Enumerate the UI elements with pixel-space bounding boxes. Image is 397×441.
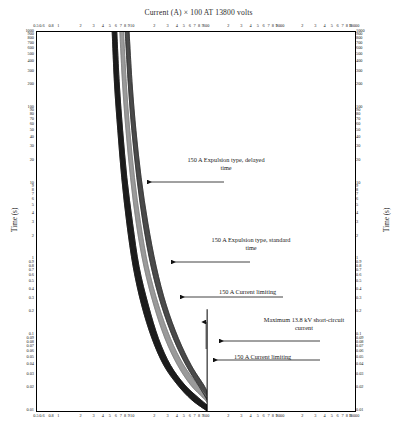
y-tick-label: 200 bbox=[356, 81, 388, 87]
x-tick-label: 0.5 bbox=[33, 411, 38, 420]
y-tick-label: 0.02 bbox=[356, 384, 388, 390]
y-tick-label: 2 bbox=[2, 233, 34, 239]
x-tick-label: 2 bbox=[301, 411, 303, 420]
x-axis-ticks-top: 0.50.60.81234567891023456789100234567891… bbox=[36, 21, 354, 30]
y-tick-label: 0.5 bbox=[356, 278, 388, 284]
x-tick-label: 6 bbox=[189, 21, 191, 30]
x-axis-ticks-bottom: 0.50.60.81234567891023456789100234567891… bbox=[36, 411, 354, 420]
x-tick-label: 3 bbox=[314, 21, 316, 30]
x-tick-label: 3 bbox=[166, 411, 168, 420]
x-tick-label: 3 bbox=[92, 411, 94, 420]
x-tick-label: 5 bbox=[183, 411, 185, 420]
curve-line bbox=[120, 32, 207, 402]
x-tick-label: 4 bbox=[323, 21, 325, 30]
y-tick-label: 0.5 bbox=[2, 278, 34, 284]
y-tick-label: 0.3 bbox=[356, 295, 388, 301]
y-tick-label: 0.4 bbox=[2, 286, 34, 292]
y-tick-label: 30 bbox=[356, 143, 388, 149]
x-tick-label: 1 bbox=[57, 411, 59, 420]
y-axis-title-left: Time (s) bbox=[11, 208, 19, 232]
x-tick-label: 8 bbox=[272, 411, 274, 420]
y-tick-label: 0.02 bbox=[2, 384, 34, 390]
x-tick-label: 8 bbox=[124, 411, 126, 420]
x-tick-label: 0.6 bbox=[39, 411, 44, 420]
y-tick-label: 400 bbox=[2, 58, 34, 64]
x-tick-label: 3 bbox=[314, 411, 316, 420]
x-tick-label: 0.5 bbox=[33, 21, 38, 30]
y-tick-label: 0.04 bbox=[356, 361, 388, 367]
y-axis-title-right: Time (s) bbox=[383, 208, 391, 232]
y-tick-label: 20 bbox=[2, 157, 34, 163]
x-tick-label: 7 bbox=[341, 411, 343, 420]
annotation-max-short-circuit: Maximum 13.8 kV short-circuit current bbox=[228, 316, 380, 333]
x-tick-label: 2 bbox=[227, 411, 229, 420]
x-tick-label: 5 bbox=[331, 21, 333, 30]
x-tick-label: 100 bbox=[203, 411, 209, 420]
y-tick-label: 0.2 bbox=[2, 308, 34, 314]
x-tick-label: 2 bbox=[301, 21, 303, 30]
y-tick-label: 0.03 bbox=[356, 371, 388, 377]
x-tick-label: 5 bbox=[331, 411, 333, 420]
x-tick-label: 4 bbox=[250, 411, 252, 420]
chart-title-top: Current (A) × 100 AT 13800 volts bbox=[0, 8, 397, 17]
x-tick-label: 6 bbox=[263, 21, 265, 30]
curve-band bbox=[120, 32, 207, 402]
y-tick-label: 30 bbox=[2, 143, 34, 149]
x-tick-label: 3 bbox=[92, 21, 94, 30]
x-tick-label: 6 bbox=[189, 411, 191, 420]
y-tick-label: 0.01 bbox=[2, 407, 34, 413]
x-tick-label: 2 bbox=[79, 411, 81, 420]
x-tick-label: 8 bbox=[346, 21, 348, 30]
x-tick-label: 8 bbox=[198, 411, 200, 420]
y-tick-label: 300 bbox=[356, 68, 388, 74]
x-tick-label: 2 bbox=[153, 411, 155, 420]
x-tick-label: 3 bbox=[166, 21, 168, 30]
y-tick-label: 0.04 bbox=[2, 361, 34, 367]
x-tick-label: 5 bbox=[109, 411, 111, 420]
x-tick-label: 6 bbox=[337, 21, 339, 30]
x-tick-label: 4 bbox=[176, 21, 178, 30]
x-tick-label: 7 bbox=[268, 21, 270, 30]
x-tick-label: 4 bbox=[102, 411, 104, 420]
x-tick-label: 5 bbox=[109, 21, 111, 30]
x-tick-label: 6 bbox=[115, 21, 117, 30]
x-tick-label: 7 bbox=[194, 411, 196, 420]
x-tick-label: 100 bbox=[203, 21, 209, 30]
x-tick-label: 4 bbox=[102, 21, 104, 30]
y-tick-label: 50 bbox=[356, 127, 388, 133]
x-tick-label: 7 bbox=[120, 411, 122, 420]
x-tick-label: 4 bbox=[323, 411, 325, 420]
annotation-expulsion-delayed: 150 A Expulsion type, delayed time bbox=[152, 156, 300, 173]
x-tick-label: 6 bbox=[263, 411, 265, 420]
x-tick-label: 7 bbox=[194, 21, 196, 30]
y-tick-label: 200 bbox=[2, 81, 34, 87]
x-tick-label: 5 bbox=[183, 21, 185, 30]
x-tick-label: 0.8 bbox=[48, 21, 53, 30]
x-tick-label: 8 bbox=[346, 411, 348, 420]
x-tick-label: 2 bbox=[79, 21, 81, 30]
x-tick-label: 5 bbox=[257, 411, 259, 420]
x-tick-label: 6 bbox=[115, 411, 117, 420]
y-tick-label: 0.05 bbox=[356, 354, 388, 360]
x-tick-label: 4 bbox=[250, 21, 252, 30]
annotation-current-limiting-lower: 150 A Current limiting bbox=[234, 353, 354, 361]
x-tick-label: 5 bbox=[257, 21, 259, 30]
x-tick-label: 8 bbox=[198, 21, 200, 30]
x-tick-label: 1000 bbox=[276, 21, 285, 30]
y-tick-label: 0.03 bbox=[2, 371, 34, 377]
x-tick-label: 0.8 bbox=[48, 411, 53, 420]
x-tick-label: 10 bbox=[130, 21, 134, 30]
y-tick-label: 40 bbox=[2, 134, 34, 140]
x-tick-label: 7 bbox=[341, 21, 343, 30]
x-tick-label: 1000 bbox=[276, 411, 285, 420]
annotation-current-limiting-upper: 150 A Current limiting bbox=[219, 288, 339, 296]
x-tick-label: 10 bbox=[130, 411, 134, 420]
y-tick-label: 0.05 bbox=[2, 354, 34, 360]
annotation-expulsion-standard: 150 A Expulsion type, standard time bbox=[176, 236, 326, 253]
y-tick-label: 0.01 bbox=[356, 407, 388, 413]
x-tick-label: 1 bbox=[57, 21, 59, 30]
y-tick-label: 500 bbox=[356, 51, 388, 57]
x-tick-label: 0.6 bbox=[39, 21, 44, 30]
x-tick-label: 7 bbox=[120, 21, 122, 30]
x-tick-label: 7 bbox=[268, 411, 270, 420]
